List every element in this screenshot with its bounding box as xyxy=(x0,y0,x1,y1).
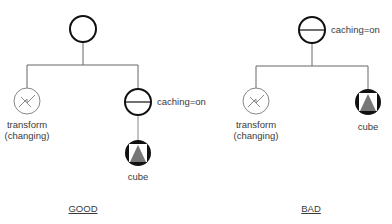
bad-transform-label: transform (changing) xyxy=(234,119,279,141)
transform-node-icon xyxy=(243,88,269,114)
transform-label-line1: transform xyxy=(234,119,279,130)
bad-cube-label: cube xyxy=(358,121,379,132)
bad-separator-label: caching=on xyxy=(331,24,380,35)
separator-node-icon xyxy=(299,17,325,43)
separator-node-icon xyxy=(125,89,151,115)
good-cube-label: cube xyxy=(128,171,149,182)
transform-label-line2: (changing) xyxy=(5,130,50,141)
good-caption: GOOD xyxy=(68,203,97,214)
good-tree xyxy=(14,16,151,166)
transform-node-icon xyxy=(14,88,40,114)
cube-node-icon xyxy=(125,140,151,166)
transform-label-line2: (changing) xyxy=(234,130,279,141)
good-separator-label: caching=on xyxy=(157,96,206,107)
transform-label-line1: transform xyxy=(5,119,50,130)
bad-caption: BAD xyxy=(301,203,321,214)
group-node-icon xyxy=(70,16,96,42)
good-transform-label: transform (changing) xyxy=(5,119,50,141)
cube-node-icon xyxy=(355,89,381,115)
